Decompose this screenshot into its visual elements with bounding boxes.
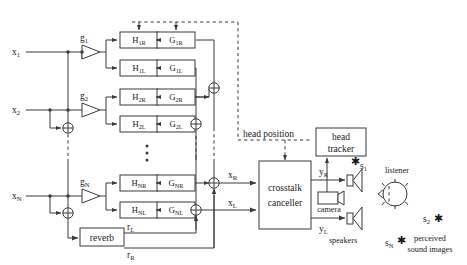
label-perceived-line1: perceived xyxy=(414,234,446,243)
svg-text:✱: ✱ xyxy=(351,156,360,167)
label-gN: gN xyxy=(80,177,90,188)
vertical-ellipsis-filters xyxy=(146,145,149,162)
camera-icon xyxy=(318,191,344,205)
label-s2: s2 xyxy=(423,214,430,225)
label-rL: rL xyxy=(127,222,134,233)
label-g2: g2 xyxy=(80,91,88,102)
svg-text:✱: ✱ xyxy=(434,213,443,224)
split-stage2 xyxy=(106,97,117,124)
split-stageN xyxy=(106,183,117,210)
label-sN: sN xyxy=(385,238,394,249)
sound-image-s2-marker: ✱ xyxy=(434,213,443,224)
adder-right-upper xyxy=(209,83,219,93)
adder-left-lower xyxy=(191,205,201,215)
adder-input-upper xyxy=(63,123,73,133)
xN-summer-branch xyxy=(48,194,61,213)
label-crosstalk-line1: crosstalk xyxy=(268,183,302,193)
listener-head-icon xyxy=(378,179,408,209)
speaker-left-icon xyxy=(347,207,362,230)
x2-summer-branch xyxy=(48,108,61,128)
sound-image-sN-marker: ✱ xyxy=(397,235,406,246)
speaker-right-icon xyxy=(347,169,362,192)
label-speakers: speakers xyxy=(329,236,357,245)
label-reverb: reverb xyxy=(90,233,115,243)
reverb-feed-wire xyxy=(68,218,78,238)
figure-canvas: ✱ ✱ ✱ x1 x2 xN g1 g2 gN H1R H1L H2R H2L … xyxy=(0,0,467,265)
label-xL: xL xyxy=(228,198,237,209)
crosstalk-canceller-block[interactable] xyxy=(259,161,311,229)
adder-left-upper xyxy=(191,119,201,129)
label-x1: x1 xyxy=(12,47,20,58)
label-yL: yL xyxy=(319,224,328,235)
adder-input-lower xyxy=(63,208,73,218)
label-listener: listener xyxy=(385,166,409,175)
split-stage1 xyxy=(106,40,117,68)
label-s1: s1 xyxy=(360,161,367,172)
input-x1-wire xyxy=(26,52,82,59)
label-x2: x2 xyxy=(12,105,20,116)
label-crosstalk-line2: canceller xyxy=(268,198,303,208)
label-rR: rR xyxy=(127,250,135,261)
svg-text:✱: ✱ xyxy=(397,235,406,246)
adder-right-lower xyxy=(209,178,219,188)
label-head-position: head position xyxy=(243,129,294,139)
gain-g1 xyxy=(80,45,106,59)
label-head-tracker-line1: head xyxy=(332,132,350,142)
label-camera: camera xyxy=(317,205,341,214)
label-xR: xR xyxy=(228,170,238,181)
label-perceived-line2: sound images xyxy=(408,245,453,254)
right-sum-bus xyxy=(195,40,214,248)
label-head-tracker-line2: tracker xyxy=(328,144,355,154)
label-xN: xN xyxy=(12,191,22,202)
label-g1: g1 xyxy=(80,33,88,44)
sound-image-s1-marker: ✱ xyxy=(351,156,360,167)
